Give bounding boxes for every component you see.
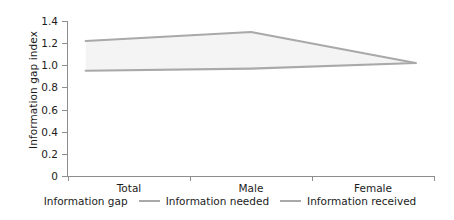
information-gap-band [86,32,416,71]
y-axis-tick [62,65,67,66]
legend-item-label: Information gap [44,196,128,207]
y-axis-tick-label: 1.4 [0,15,58,27]
y-axis-tick-label: 1.0 [0,59,58,71]
y-axis-tick-label: 0 [0,170,58,182]
x-axis-tick [434,176,435,181]
y-axis-line [67,21,68,177]
x-axis-tick [190,176,191,181]
x-axis-line [67,176,435,177]
legend-item[interactable]: Information gap [38,196,128,207]
legend-item-label: Information received [307,196,416,207]
y-axis-tick-label: 0.8 [0,81,58,93]
chart-container: Information gap index 00.20.40.60.81.01.… [0,0,454,220]
x-axis-tick [312,176,313,181]
y-axis-tick-label: 0.6 [0,104,58,116]
y-axis-tick [62,132,67,133]
x-axis-category-label: Total [117,182,142,194]
y-axis-tick [62,176,67,177]
x-axis-category-label: Male [239,182,264,194]
y-axis-tick-label: 0.2 [0,148,58,160]
x-axis-tick [68,176,69,181]
legend-line-swatch-icon [280,200,301,202]
legend-item[interactable]: Information received [280,196,416,207]
y-axis-tick [62,43,67,44]
y-axis-tick [62,110,67,111]
y-axis-tick [62,154,67,155]
series-line-information-needed [86,32,416,63]
series-line-information-received [86,63,416,71]
legend-item[interactable]: Information needed [139,196,269,207]
y-axis-tick [62,87,67,88]
x-axis-category-label: Female [354,182,392,194]
legend-item-label: Information needed [166,196,269,207]
y-axis-tick-label: 0.4 [0,126,58,138]
legend-line-swatch-icon [139,200,160,202]
chart-legend: Information gapInformation neededInforma… [0,196,454,207]
y-axis-tick [62,21,67,22]
y-axis-tick-label: 1.2 [0,37,58,49]
